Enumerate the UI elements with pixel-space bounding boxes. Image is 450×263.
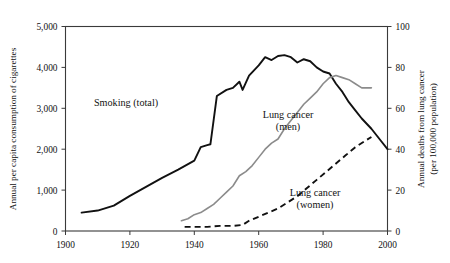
y-axis-left-title: Annual per capita consumption of cigaret…	[8, 47, 18, 210]
y-axis-right-title-line1: Annual deaths from lung cancer	[416, 70, 426, 188]
y-left-tick-label: 5,000	[36, 22, 57, 32]
chart-container: 190019201940196019802000 01,0002,0003,00…	[0, 0, 450, 263]
y-left-tick-label: 1,000	[36, 186, 57, 196]
series-label-lung-cancer-women-line2: (women)	[297, 199, 334, 211]
y-left-tick-label: 3,000	[36, 104, 57, 114]
x-tick-label: 2000	[378, 240, 397, 250]
y-right-tick-label: 40	[396, 145, 406, 155]
series-label-smoking-total: Smoking (total)	[94, 97, 158, 109]
y-left-tick-label: 2,000	[36, 145, 57, 155]
y-right-tick-label: 0	[396, 227, 401, 237]
x-tick-label: 1940	[185, 240, 204, 250]
series-label-lung-cancer-women-line1: Lung cancer	[290, 187, 341, 198]
y-left-tick-label: 4,000	[36, 63, 57, 73]
chart-background	[0, 0, 450, 263]
y-right-tick-label: 80	[396, 63, 406, 73]
y-axis-right-title-line2: (per 100,000 population)	[428, 83, 438, 175]
x-tick-label: 1920	[121, 240, 140, 250]
y-right-tick-label: 20	[396, 186, 406, 196]
x-tick-label: 1980	[314, 240, 333, 250]
x-tick-label: 1960	[249, 240, 268, 250]
series-label-lung-cancer-men-line2: (men)	[276, 121, 300, 133]
y-right-tick-label: 100	[396, 22, 410, 32]
smoking-lung-cancer-chart: 190019201940196019802000 01,0002,0003,00…	[0, 0, 450, 263]
x-tick-label: 1900	[56, 240, 75, 250]
y-right-tick-label: 60	[396, 104, 406, 114]
series-label-lung-cancer-men-line1: Lung cancer	[263, 109, 314, 120]
y-left-tick-label: 0	[53, 227, 58, 237]
